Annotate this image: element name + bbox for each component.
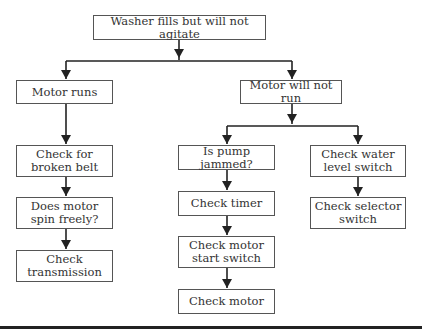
- node-check-selector-switch: Check selector switch: [310, 197, 406, 229]
- node-motor-will-not-run: Motor will not run: [240, 80, 342, 104]
- node-check-motor: Check motor: [178, 289, 275, 314]
- node-check-broken-belt: Check for broken belt: [16, 145, 113, 177]
- node-check-water-level-switch: Check water level switch: [310, 145, 406, 177]
- node-check-motor-start-switch: Check motor start switch: [178, 236, 275, 268]
- node-check-transmission: Check transmission: [16, 250, 113, 282]
- node-check-timer: Check timer: [178, 191, 275, 216]
- node-root: Washer fills but will not agitate: [93, 15, 266, 40]
- node-motor-runs: Motor runs: [16, 80, 113, 104]
- bottom-rule: [0, 326, 422, 329]
- node-motor-spin-freely: Does motor spin freely?: [16, 197, 113, 229]
- node-pump-jammed: Is pump jammed?: [178, 145, 275, 170]
- flowchart-canvas: Washer fills but will not agitate Motor …: [0, 0, 422, 330]
